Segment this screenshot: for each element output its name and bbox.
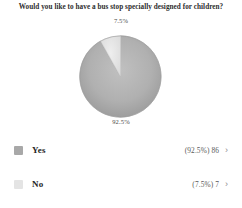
legend: Yes (92.5%) 86 › No (7.5%) 7 › [0,133,242,201]
survey-result-card: Would you like to have a bus stop specia… [0,0,242,208]
legend-swatch-yes [14,146,23,155]
pie-chart-graphic [78,35,163,118]
pie-slice-label-yes: 92.5% [0,118,242,125]
chevron-right-icon[interactable]: › [225,146,228,155]
legend-label-yes: Yes [32,145,185,155]
chevron-right-icon[interactable]: › [225,180,228,189]
legend-value-no: (7.5%) 7 [192,180,219,189]
pie-chart: 7.5% 92.5% [0,14,242,132]
legend-label-no: No [32,179,192,189]
pie-slice-label-no: 7.5% [0,17,242,24]
chart-title: Would you like to have a bus stop specia… [0,3,242,12]
legend-row-yes[interactable]: Yes (92.5%) 86 › [0,133,242,167]
legend-row-no[interactable]: No (7.5%) 7 › [0,167,242,201]
legend-value-yes: (92.5%) 86 [185,146,219,155]
legend-swatch-no [14,180,23,189]
